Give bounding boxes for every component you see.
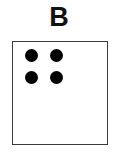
figure-panel: B [0,0,118,157]
stimulus-box [12,41,108,145]
panel-label: B [0,2,118,32]
dot-top-left [25,49,38,62]
dot-bottom-left [25,71,38,84]
dot-top-right [50,49,63,62]
dot-bottom-right [50,71,63,84]
